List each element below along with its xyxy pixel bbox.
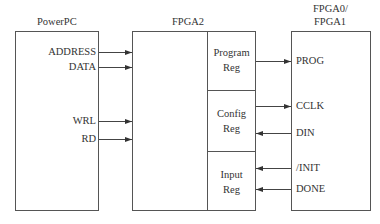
- connection-arrows: [0, 0, 380, 224]
